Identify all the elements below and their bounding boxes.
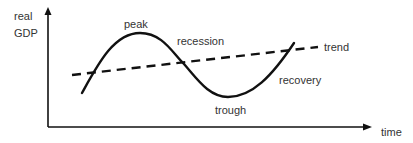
y-axis-label-gdp: GDP: [14, 27, 38, 40]
label-recovery: recovery: [279, 74, 321, 87]
diagram-canvas: [0, 0, 413, 143]
label-recession: recession: [177, 35, 224, 48]
y-axis-arrow-icon: [45, 7, 52, 15]
label-trend: trend: [324, 41, 349, 54]
label-peak: peak: [124, 18, 148, 31]
y-axis-label-real: real: [14, 10, 32, 23]
label-trough: trough: [215, 104, 246, 117]
x-axis-arrow-icon: [363, 124, 372, 131]
x-axis-label-time: time: [381, 126, 402, 139]
business-cycle-diagram: real GDP peak recession trend recovery t…: [0, 0, 413, 143]
